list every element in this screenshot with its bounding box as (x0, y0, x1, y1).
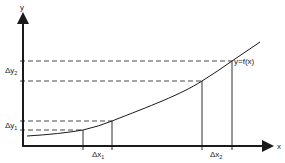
dashed-guides (20, 61, 232, 130)
dy2-label: Δy2 (5, 66, 17, 76)
dy1-label: Δy1 (5, 121, 17, 131)
y-axis-label: y (20, 3, 24, 12)
dx1-label: Δx1 (92, 150, 104, 160)
dx2-label: Δx2 (210, 150, 222, 160)
x-axis-label: x (277, 142, 281, 151)
vertical-guides (83, 61, 232, 150)
curve-label: y=f(x) (234, 57, 255, 66)
function-increment-diagram: y x y=f(x) Δy2 Δy1 Δx1 Δx2 (0, 0, 285, 163)
function-curve (27, 42, 260, 136)
